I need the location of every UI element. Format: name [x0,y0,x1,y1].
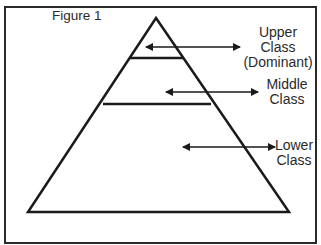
upper-class-label-line2: Class [243,40,313,55]
middle-class-label: Middle Class [260,77,314,107]
upper-class-label-line3: (Dominant) [243,55,313,70]
lower-class-label-line1: Lower [272,138,316,153]
middle-class-label-line2: Class [260,92,314,107]
lower-class-label: Lower Class [272,138,316,168]
lower-class-label-line2: Class [272,153,316,168]
middle-class-label-line1: Middle [260,77,314,92]
upper-class-label-line1: Upper [243,25,313,40]
upper-class-label: Upper Class (Dominant) [243,25,313,70]
